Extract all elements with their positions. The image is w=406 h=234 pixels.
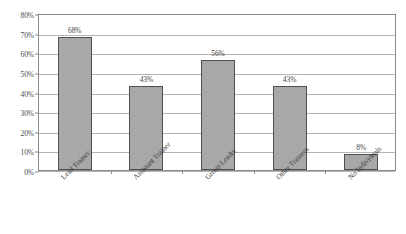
bar-group: 8% xyxy=(325,15,397,170)
bar-value-label: 8% xyxy=(356,143,366,152)
y-axis-label: 40% xyxy=(21,89,34,98)
plot-area: 0%10%20%30%40%50%60%70%80%68%43%56%43%8% xyxy=(38,14,396,171)
bar-value-label: 68% xyxy=(68,26,81,35)
x-axis-tick xyxy=(182,170,183,174)
y-axis-tick xyxy=(35,172,39,173)
y-axis-label: 30% xyxy=(21,109,34,118)
x-axis-tick xyxy=(254,170,255,174)
x-axis-tick xyxy=(111,170,112,174)
x-axis-tick xyxy=(325,170,326,174)
y-axis-label: 10% xyxy=(21,148,34,157)
y-axis-label: 60% xyxy=(21,50,34,59)
bar-chart: 0%10%20%30%40%50%60%70%80%68%43%56%43%8%… xyxy=(0,0,406,234)
bar-value-label: 43% xyxy=(283,75,296,84)
y-axis-label: 0% xyxy=(24,168,34,177)
bar-group: 43% xyxy=(254,15,326,170)
bar-value-label: 56% xyxy=(211,49,224,58)
y-axis-label: 50% xyxy=(21,69,34,78)
y-axis-label: 80% xyxy=(21,11,34,20)
y-axis-label: 70% xyxy=(21,30,34,39)
y-axis-label: 20% xyxy=(21,128,34,137)
bar-group: 68% xyxy=(39,15,111,170)
bar-group: 56% xyxy=(182,15,254,170)
bar-value-label: 43% xyxy=(140,75,153,84)
